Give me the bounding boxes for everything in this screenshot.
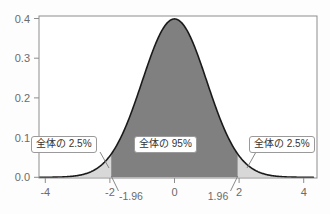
y-tick-label: 0.1 xyxy=(15,132,30,144)
right-tail-callout-text: 全体の 2.5% xyxy=(254,138,310,149)
x-critical-label-negative: -1.96 xyxy=(119,190,143,202)
center-callout-text: 全体の 95% xyxy=(139,138,192,149)
distribution-plot: 0.4 0.3 0.2 0.1 0.0 -4 -2 0 2 4 -1 xyxy=(0,0,330,214)
x-axis-ticks xyxy=(45,178,303,183)
x-axis-labels: -4 -2 0 2 4 xyxy=(40,186,306,198)
y-tick-label: 0.0 xyxy=(15,171,30,183)
x-critical-label-positive: 1.96 xyxy=(208,190,229,202)
center-callout: 全体の 95% xyxy=(134,136,197,153)
x-tick-label: 4 xyxy=(301,186,307,198)
x-tick-label: 2 xyxy=(236,186,242,198)
y-tick-label: 0.3 xyxy=(15,52,30,64)
left-tail-callout: 全体の 2.5% xyxy=(31,136,97,153)
x-tick-label: -2 xyxy=(105,186,115,198)
right-tail-callout: 全体の 2.5% xyxy=(249,136,315,153)
y-tick-label: 0.4 xyxy=(15,13,30,25)
y-axis-ticks xyxy=(34,19,39,178)
x-tick-label: -4 xyxy=(40,186,50,198)
x-tick-label: 0 xyxy=(171,186,177,198)
left-tail-callout-text: 全体の 2.5% xyxy=(36,138,92,149)
normal-distribution-figure: 0.4 0.3 0.2 0.1 0.0 -4 -2 0 2 4 -1 xyxy=(0,0,330,214)
y-tick-label: 0.2 xyxy=(15,92,30,104)
y-axis-labels: 0.4 0.3 0.2 0.1 0.0 xyxy=(15,13,30,184)
